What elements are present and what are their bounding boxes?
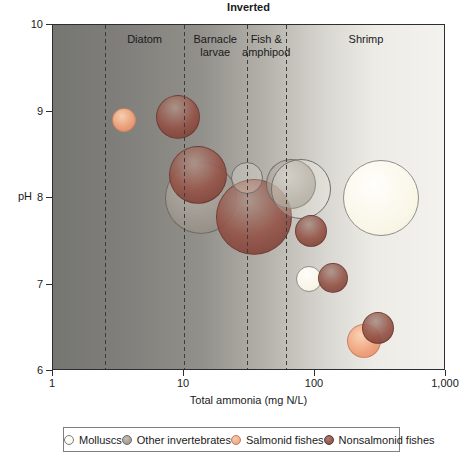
mollusc-marker-icon: [64, 435, 74, 445]
y-tick-label: 6: [0, 364, 43, 376]
legend-item-other: Other invertebrates: [122, 434, 231, 446]
figure-title: Inverted: [52, 1, 445, 13]
legend: MolluscsOther invertebratesSalmonid fish…: [63, 427, 400, 452]
region-label-diatom: Diatom: [127, 33, 162, 46]
bubble-mollusc: [271, 159, 331, 219]
x-tick-label: 10: [177, 377, 189, 389]
bubble-nonsalmonid: [169, 146, 227, 204]
other-marker-icon: [122, 435, 132, 445]
x-tick: [445, 370, 446, 376]
figure: Inverted DiatomBarnacle larvaeFish & amp…: [0, 0, 465, 461]
bubble-nonsalmonid: [295, 215, 327, 247]
y-tick: [46, 197, 52, 198]
x-tick-label: 100: [305, 377, 323, 389]
bubble-nonsalmonid: [156, 95, 200, 139]
region-boundary-line: [286, 25, 287, 369]
bubble-mollusc: [343, 160, 419, 236]
plot-area: DiatomBarnacle larvaeFish & amphipodShri…: [52, 24, 445, 370]
region-boundary-line: [247, 25, 248, 369]
x-tick-label: 1: [49, 377, 55, 389]
y-tick-label: 7: [0, 278, 43, 290]
legend-item-label: Molluscs: [79, 434, 122, 446]
x-tick: [183, 370, 184, 376]
nonsalmonid-marker-icon: [324, 435, 334, 445]
y-tick-label: 10: [0, 18, 43, 30]
legend-item-salmonid: Salmonid fishes: [231, 434, 324, 446]
legend-item-mollusc: Molluscs: [64, 434, 122, 446]
region-label-fish-amphipod: Fish & amphipod: [235, 33, 297, 59]
region-boundary-line: [105, 25, 106, 369]
x-tick: [52, 370, 53, 376]
salmonid-marker-icon: [231, 435, 241, 445]
region-boundary-line: [184, 25, 185, 369]
bubble-salmonid: [112, 108, 136, 132]
bubble-nonsalmonid: [362, 312, 394, 344]
y-tick: [46, 24, 52, 25]
legend-item-label: Nonsalmonid fishes: [339, 434, 435, 446]
legend-item-label: Other invertebrates: [137, 434, 231, 446]
x-tick-label: 1,000: [431, 377, 459, 389]
region-label-shrimp: Shrimp: [349, 33, 384, 46]
y-tick-label: 9: [0, 105, 43, 117]
bubble-nonsalmonid: [318, 263, 348, 293]
y-tick: [46, 111, 52, 112]
x-axis-label: Total ammonia (mg N/L): [52, 394, 445, 406]
legend-item-nonsalmonid: Nonsalmonid fishes: [324, 434, 435, 446]
y-axis-label: pH: [18, 190, 32, 202]
legend-item-label: Salmonid fishes: [246, 434, 324, 446]
x-tick: [314, 370, 315, 376]
y-tick: [46, 284, 52, 285]
